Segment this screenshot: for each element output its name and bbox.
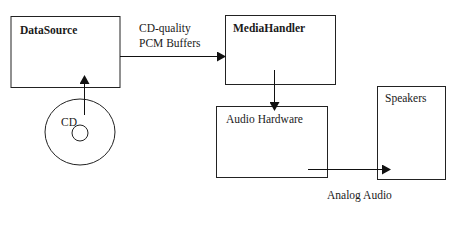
- edge-label-analog-audio: Analog Audio: [327, 189, 392, 202]
- cd-label: CD: [61, 116, 77, 129]
- audiohardware-label: Audio Hardware: [226, 113, 303, 126]
- datasource-label: DataSource: [20, 24, 77, 37]
- mediahandler-label: MediaHandler: [233, 22, 305, 35]
- edge-label-line1: CD-quality: [139, 22, 191, 35]
- speakers-label: Speakers: [385, 92, 427, 105]
- edge-label-line2: PCM Buffers: [139, 37, 200, 50]
- cd-disc-icon: [45, 99, 115, 165]
